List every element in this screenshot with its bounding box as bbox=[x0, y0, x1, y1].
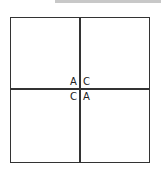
label-top-right: C bbox=[83, 77, 90, 87]
top-bar bbox=[55, 0, 161, 3]
vertical-divider bbox=[79, 17, 81, 163]
label-bottom-left: C bbox=[70, 92, 77, 102]
label-top-left: A bbox=[70, 77, 77, 87]
horizontal-divider bbox=[10, 88, 150, 90]
label-bottom-right: A bbox=[83, 92, 90, 102]
